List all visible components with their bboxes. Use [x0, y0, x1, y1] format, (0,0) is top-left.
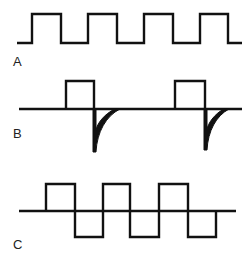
label-b: B [13, 126, 22, 141]
panel-c: C [13, 184, 236, 252]
panel-b: B [13, 81, 242, 152]
label-a: A [13, 54, 22, 69]
undershoot-spike-b-1 [93, 109, 120, 152]
pulse-b-2 [175, 81, 205, 109]
undershoot-spike-b-2 [204, 109, 229, 150]
pulse-b-1 [66, 81, 94, 109]
waveform-a [17, 14, 242, 43]
panel-a: A [13, 14, 242, 69]
label-c: C [13, 237, 22, 252]
waveform-diagram: A B C [0, 0, 252, 257]
